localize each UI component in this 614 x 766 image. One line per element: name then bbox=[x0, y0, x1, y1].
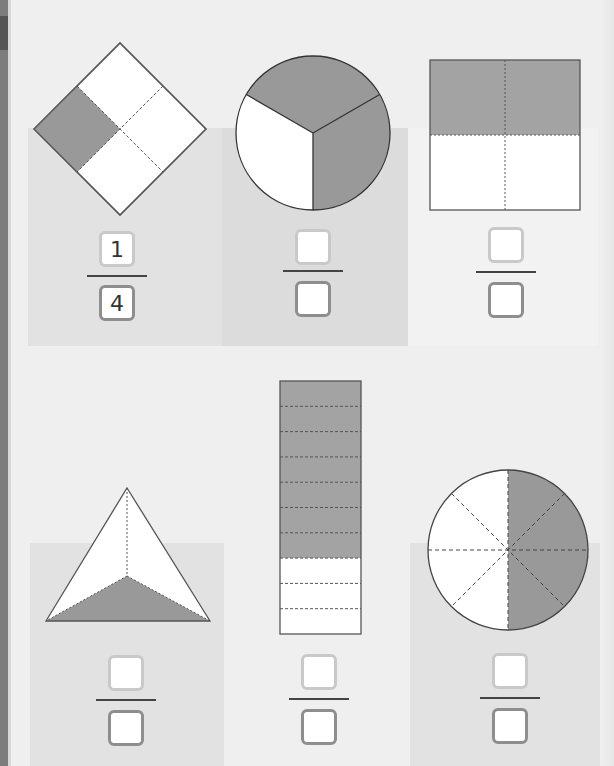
triangle-shape bbox=[46, 488, 210, 621]
denominator-input-1[interactable]: 4 bbox=[99, 285, 135, 321]
numerator-input-2[interactable] bbox=[295, 229, 331, 265]
denominator-input-3[interactable] bbox=[488, 282, 524, 318]
numerator-input-6[interactable] bbox=[492, 653, 528, 689]
fraction-bar-6 bbox=[480, 697, 540, 699]
numerator-input-1[interactable]: 1 bbox=[99, 231, 135, 267]
fraction-shapes bbox=[0, 0, 614, 766]
denominator-input-5[interactable] bbox=[301, 709, 337, 745]
square-shape bbox=[430, 60, 580, 210]
fraction-bar-2 bbox=[283, 270, 343, 272]
denominator-input-4[interactable] bbox=[108, 710, 144, 746]
fraction-bar-3 bbox=[476, 271, 536, 273]
circle-thirds-shape bbox=[236, 56, 390, 210]
fraction-bar-5 bbox=[289, 698, 349, 700]
fraction-bar-4 bbox=[96, 699, 156, 701]
diamond-shape bbox=[34, 43, 206, 215]
fraction-bar-1 bbox=[87, 275, 147, 277]
numerator-input-3[interactable] bbox=[488, 227, 524, 263]
bar-tenths-shape bbox=[280, 381, 361, 634]
numerator-input-4[interactable] bbox=[108, 655, 144, 691]
denominator-input-2[interactable] bbox=[295, 281, 331, 317]
denominator-input-6[interactable] bbox=[492, 708, 528, 744]
circle-eighths-shape bbox=[428, 470, 588, 630]
numerator-input-5[interactable] bbox=[301, 654, 337, 690]
